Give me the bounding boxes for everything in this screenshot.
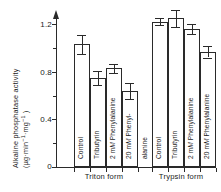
x-axis-group-labels: Triton form Trypsin form bbox=[0, 0, 221, 192]
group-label-triton: Triton form bbox=[74, 172, 134, 181]
chart-figure: Alkaline phosphatase activity (µg·min−1·… bbox=[0, 0, 221, 192]
group-label-trypsin: Trypsin form bbox=[150, 172, 212, 181]
